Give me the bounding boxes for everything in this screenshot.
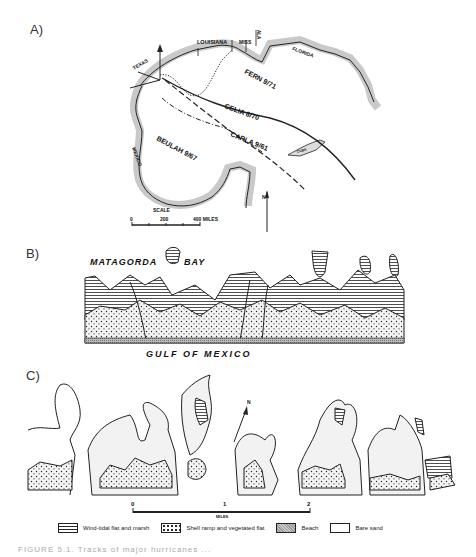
- bare-sand-swatch: [330, 523, 350, 533]
- scale-c-unit: MILES: [216, 514, 229, 519]
- legend-label-marsh: Wind-tidal flat and marsh: [83, 525, 149, 531]
- scale-tick-400: 400 MILES: [193, 216, 219, 222]
- label-carla: CARLA 9/61: [230, 130, 270, 151]
- legend-item-beach: Beach: [276, 523, 318, 533]
- label-matagorda: MATAGORDA: [90, 257, 157, 267]
- legend-label-beach: Beach: [301, 525, 318, 531]
- scale-tick-0: 0: [130, 216, 133, 222]
- panel-a-map: N LOUISIANA MISS ALA FLORIDA TEXAS MEXIC…: [130, 30, 378, 232]
- region-louisiana: LOUISIANA: [197, 39, 227, 45]
- track-celia: [162, 78, 355, 180]
- label-bay: BAY: [184, 257, 205, 267]
- legend-item-marsh: Wind-tidal flat and marsh: [58, 523, 149, 533]
- scale-tick-200: 200: [160, 216, 169, 222]
- legend-item-shell: Shell ramp and vegetated flat: [161, 523, 264, 533]
- beach-swatch: [276, 523, 296, 533]
- label-gulf-of-mexico: GULF OF MEXICO: [146, 349, 252, 359]
- panel-c-map: N 0 1 2 MILES: [28, 375, 455, 519]
- region-texas: TEXAS: [132, 57, 150, 71]
- scale-c-tick-2: 2: [307, 501, 311, 507]
- figure-maps: N LOUISIANA MISS ALA FLORIDA TEXAS MEXIC…: [0, 0, 476, 557]
- region-mississippi: MISS: [239, 39, 252, 45]
- north-label-a: N: [262, 194, 266, 200]
- legend-label-shell: Shell ramp and vegetated flat: [186, 525, 264, 531]
- legend: Wind-tidal flat and marsh Shell ramp and…: [58, 521, 418, 535]
- label-fern: FERN 9/71: [244, 68, 278, 90]
- label-celia: CELIA 8/70: [224, 102, 261, 121]
- legend-label-bare: Bare sand: [355, 525, 382, 531]
- north-label-c: N: [247, 399, 251, 405]
- scale-c-tick-1: 1: [223, 501, 227, 507]
- panel-b-map: MATAGORDA BAY GULF OF MEXICO: [85, 247, 404, 359]
- legend-item-bare: Bare sand: [330, 523, 382, 533]
- region-alabama: ALA: [256, 30, 261, 40]
- scale-title-a: SCALE: [153, 207, 171, 213]
- scale-c-tick-0: 0: [131, 501, 135, 507]
- marsh-swatch: [58, 523, 78, 533]
- figure-caption: FIGURE 5.1. Tracks of major hurricanes .…: [18, 545, 211, 554]
- label-beulah: BEULAH 9/67: [156, 135, 199, 162]
- shell-swatch: [161, 523, 181, 533]
